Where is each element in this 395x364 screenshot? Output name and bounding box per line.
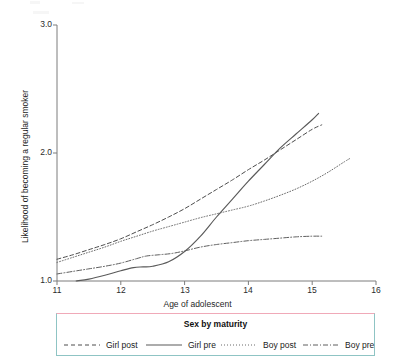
- legend: Sex by maturity Girl post Girl pre Boy p…: [56, 313, 375, 356]
- legend-label-girl-pre: Girl pre: [188, 340, 216, 350]
- legend-item-girl-pre[interactable]: Girl pre: [145, 337, 216, 353]
- series-line-boy-post: [57, 158, 350, 262]
- line-sample-dotted-icon: [220, 341, 258, 349]
- legend-label-girl-post: Girl post: [106, 340, 138, 350]
- legend-label-boy-post: Boy post: [263, 340, 296, 350]
- y-axis-title: Likelihood of becoming a regular smoker: [20, 90, 30, 243]
- y-tick-label-1: 1.0: [26, 276, 52, 285]
- series-line-girl-pre: [76, 113, 318, 281]
- x-axis-title: Age of adolescent: [0, 299, 395, 309]
- y-tick-label-3: 3.0: [26, 20, 52, 29]
- legend-label-boy-pre: Boy pre: [345, 340, 374, 350]
- line-sample-dashdot-icon: [302, 341, 340, 349]
- legend-item-girl-post[interactable]: Girl post: [63, 337, 138, 353]
- series-line-boy-pre: [57, 236, 322, 274]
- x-tick-label-16: 16: [366, 286, 386, 295]
- x-tick-label-14: 14: [238, 286, 258, 295]
- chart-figure: 3.0 2.0 1.0 11 12 13 14 15 16 Age of ado…: [0, 0, 395, 364]
- legend-title: Sex by maturity: [57, 319, 374, 329]
- series-line-girl-post: [57, 125, 322, 259]
- x-tick-label-12: 12: [111, 286, 131, 295]
- line-sample-solid-icon: [145, 341, 183, 349]
- legend-items: Girl post Girl pre Boy post Boy pre: [57, 337, 374, 353]
- plot-area: [0, 0, 395, 300]
- legend-item-boy-post[interactable]: Boy post: [220, 337, 296, 353]
- line-sample-dashed-icon: [63, 341, 101, 349]
- x-tick-label-15: 15: [302, 286, 322, 295]
- legend-item-boy-pre[interactable]: Boy pre: [302, 337, 374, 353]
- x-tick-label-13: 13: [175, 286, 195, 295]
- x-tick-label-11: 11: [47, 286, 67, 295]
